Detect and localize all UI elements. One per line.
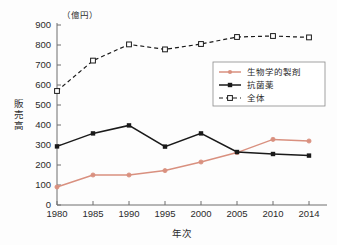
data-point (235, 35, 240, 40)
data-point (307, 35, 312, 40)
x-tick-label: 1990 (118, 208, 139, 219)
data-point (91, 173, 95, 177)
data-point (307, 139, 311, 143)
x-tick-label: 2010 (262, 208, 283, 219)
y-tick-label: 400 (35, 119, 51, 130)
legend-label-1: 抗菌薬 (247, 80, 274, 90)
data-point (55, 89, 60, 94)
legend-marker-0 (228, 70, 232, 74)
data-point (127, 123, 131, 127)
legend-marker-2 (228, 96, 233, 101)
data-point (127, 42, 132, 47)
x-tick-label: 1995 (154, 208, 175, 219)
chart-canvas: （億円）010020030040050060070080090019801985… (0, 0, 337, 245)
y-tick-label: 600 (35, 79, 51, 90)
data-point (271, 137, 275, 141)
data-point (199, 160, 203, 164)
y-tick-label: 200 (35, 159, 51, 170)
x-tick-label: 1980 (46, 208, 67, 219)
data-point (163, 47, 168, 52)
data-point (163, 144, 167, 148)
data-point (91, 131, 95, 135)
series-line-0 (57, 139, 309, 187)
x-tick-label: 2000 (190, 208, 211, 219)
y-tick-label: 100 (35, 179, 51, 190)
data-point (199, 42, 204, 47)
y-axis-unit-label: （億円） (62, 10, 98, 20)
data-point (235, 150, 239, 154)
y-tick-label: 900 (35, 19, 51, 30)
y-axis-title: 販売高 (13, 98, 24, 131)
x-tick-label: 2014 (298, 208, 319, 219)
data-point (199, 131, 203, 135)
data-point (271, 152, 275, 156)
x-axis-title: 年次 (172, 228, 192, 239)
line-chart: （億円）010020030040050060070080090019801985… (0, 0, 337, 245)
data-point (271, 34, 276, 39)
data-point (55, 185, 59, 189)
data-point (307, 153, 311, 157)
data-point (163, 169, 167, 173)
legend-marker-1 (228, 83, 232, 87)
y-tick-label: 300 (35, 139, 51, 150)
legend-label-0: 生物学的製剤 (247, 67, 301, 77)
y-tick-label: 700 (35, 59, 51, 70)
data-point (91, 58, 96, 63)
x-tick-label: 2005 (226, 208, 247, 219)
y-tick-label: 800 (35, 39, 51, 50)
y-tick-label: 500 (35, 99, 51, 110)
data-point (55, 144, 59, 148)
x-tick-label: 1985 (82, 208, 103, 219)
legend-label-2: 全体 (247, 93, 265, 103)
data-point (127, 173, 131, 177)
